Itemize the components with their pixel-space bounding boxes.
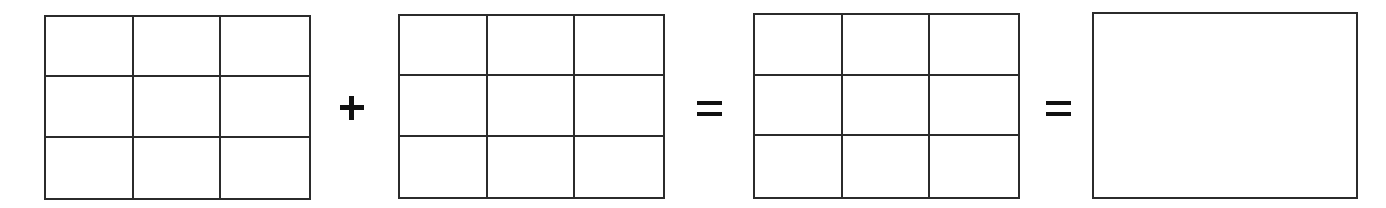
grid-cell (488, 76, 576, 136)
grid-cell (221, 17, 309, 77)
grid-cell (134, 77, 222, 137)
grid-cell (755, 15, 843, 76)
grid-cell (400, 76, 488, 136)
grid-cell (843, 15, 931, 76)
grid-cell (221, 77, 309, 137)
equals-symbol: = (695, 94, 696, 95)
grid-cell (575, 76, 663, 136)
grid-a: 3x3 grid A (44, 15, 311, 200)
grid-cell (134, 138, 222, 198)
grid-cell (221, 138, 309, 198)
grid-cell (755, 76, 843, 137)
plus-symbol: + (337, 93, 338, 94)
grid-cell (400, 16, 488, 76)
grid-cell (488, 137, 576, 197)
grid-cell (400, 137, 488, 197)
grid-cell (46, 17, 134, 77)
single-rectangle: single rectangle (1092, 12, 1358, 199)
grid-cell (930, 136, 1018, 197)
grid-c: 3x3 grid C (753, 13, 1020, 199)
equals-icon: = (695, 94, 725, 124)
grid-cell (134, 17, 222, 77)
grid-cell (575, 137, 663, 197)
grid-cell (575, 16, 663, 76)
rectangle-label: single rectangle (1094, 14, 1095, 15)
grid-cell (46, 77, 134, 137)
equals-icon: = (1044, 94, 1074, 124)
grid-cell (755, 136, 843, 197)
grid-cell (843, 76, 931, 137)
grid-cell (46, 138, 134, 198)
grid-cell (843, 136, 931, 197)
equals-symbol: = (1044, 94, 1045, 95)
plus-icon: + (337, 93, 367, 123)
grid-cell (930, 15, 1018, 76)
grid-cell (488, 16, 576, 76)
grid-b: 3x3 grid B (398, 14, 665, 199)
grid-cell (930, 76, 1018, 137)
